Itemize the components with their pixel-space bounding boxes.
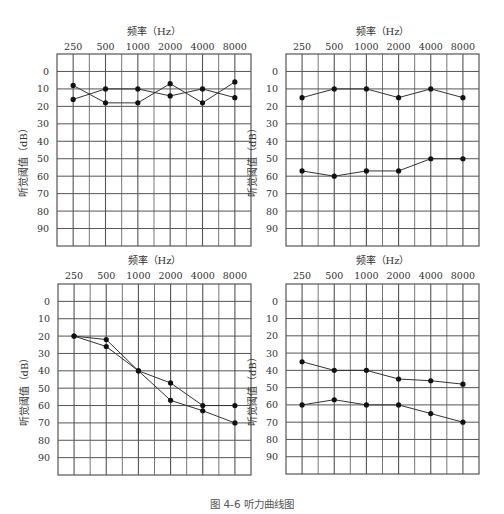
x-tick-label: 250 bbox=[293, 41, 311, 52]
y-tick-label: 80 bbox=[37, 206, 49, 217]
x-tick-label: 4000 bbox=[190, 41, 214, 52]
x-tick-label: 8000 bbox=[223, 41, 247, 52]
data-point-marker bbox=[332, 86, 337, 91]
data-point-marker bbox=[200, 408, 205, 413]
data-point-marker bbox=[103, 86, 108, 91]
y-tick-label: 40 bbox=[38, 365, 50, 376]
data-point-marker bbox=[103, 100, 108, 105]
data-point-marker bbox=[332, 368, 337, 373]
x-tick-label: 1000 bbox=[354, 270, 378, 281]
data-point-marker bbox=[428, 378, 433, 383]
y-tick-label: 40 bbox=[266, 365, 278, 376]
y-tick-label: 30 bbox=[38, 348, 50, 359]
data-point-marker bbox=[332, 174, 337, 179]
data-point-marker bbox=[460, 156, 465, 161]
grid bbox=[57, 54, 251, 246]
data-point-marker bbox=[232, 79, 237, 84]
grid bbox=[286, 54, 479, 246]
y-tick-label: 30 bbox=[37, 118, 49, 129]
x-tick-label: 250 bbox=[64, 41, 82, 52]
grid bbox=[58, 284, 251, 475]
data-point-marker bbox=[135, 86, 140, 91]
y-axis-title: 听觉阈值（dB） bbox=[246, 123, 258, 197]
x-tick-label: 4000 bbox=[419, 41, 443, 52]
x-axis-title: 频率（Hz） bbox=[128, 254, 182, 266]
data-point-marker bbox=[364, 168, 369, 173]
x-tick-label: 2000 bbox=[386, 41, 410, 52]
x-tick-label: 2000 bbox=[158, 270, 182, 281]
y-tick-label: 20 bbox=[37, 101, 49, 112]
y-axis-title: 听觉阈值（dB） bbox=[18, 353, 30, 427]
x-tick-label: 8000 bbox=[223, 270, 247, 281]
data-point-marker bbox=[460, 95, 465, 100]
data-point-marker bbox=[200, 403, 205, 408]
y-tick-label: 90 bbox=[38, 452, 50, 463]
y-tick-label: 20 bbox=[266, 101, 278, 112]
x-tick-label: 2000 bbox=[386, 270, 410, 281]
data-point-marker bbox=[364, 368, 369, 373]
data-point-marker bbox=[299, 168, 304, 173]
data-point-marker bbox=[460, 382, 465, 387]
y-tick-label: 0 bbox=[43, 66, 49, 77]
y-tick-label: 70 bbox=[266, 417, 278, 428]
data-point-marker bbox=[168, 93, 173, 98]
y-tick-label: 80 bbox=[266, 206, 278, 217]
x-tick-label: 500 bbox=[325, 270, 343, 281]
audiogram-bottom-left: 频率（Hz）2505001000200040008000010203040506… bbox=[18, 254, 251, 475]
data-point-marker bbox=[428, 156, 433, 161]
x-axis-title: 频率（Hz） bbox=[127, 25, 181, 37]
y-tick-label: 70 bbox=[266, 188, 278, 199]
data-point-marker bbox=[168, 380, 173, 385]
data-point-marker bbox=[428, 411, 433, 416]
data-point-marker bbox=[299, 359, 304, 364]
data-point-marker bbox=[396, 95, 401, 100]
y-tick-label: 30 bbox=[266, 118, 278, 129]
x-tick-label: 8000 bbox=[451, 270, 475, 281]
x-tick-label: 250 bbox=[293, 270, 311, 281]
y-tick-label: 60 bbox=[37, 171, 49, 182]
data-point-marker bbox=[168, 398, 173, 403]
y-tick-label: 10 bbox=[37, 83, 49, 94]
x-axis-title: 频率（Hz） bbox=[356, 254, 410, 266]
grid bbox=[286, 284, 479, 474]
y-axis-title: 听觉阈值（dB） bbox=[246, 352, 258, 426]
x-tick-label: 500 bbox=[97, 270, 115, 281]
y-tick-label: 90 bbox=[266, 223, 278, 234]
x-tick-label: 1000 bbox=[126, 270, 150, 281]
data-point-marker bbox=[460, 420, 465, 425]
x-tick-label: 500 bbox=[96, 41, 114, 52]
y-tick-label: 80 bbox=[266, 434, 278, 445]
figure-caption: 图 4-6 听力曲线图 bbox=[0, 496, 504, 511]
y-tick-label: 60 bbox=[266, 399, 278, 410]
y-tick-label: 10 bbox=[38, 313, 50, 324]
y-tick-label: 90 bbox=[266, 451, 278, 462]
data-point-marker bbox=[104, 337, 109, 342]
y-tick-label: 70 bbox=[37, 188, 49, 199]
y-tick-label: 60 bbox=[38, 400, 50, 411]
audiogram-top-left: 频率（Hz）2505001000200040008000010203040506… bbox=[17, 25, 251, 246]
y-tick-label: 0 bbox=[272, 296, 278, 307]
data-point-marker bbox=[299, 95, 304, 100]
data-point-marker bbox=[135, 100, 140, 105]
data-point-marker bbox=[232, 420, 237, 425]
x-tick-label: 4000 bbox=[419, 270, 443, 281]
data-point-marker bbox=[396, 376, 401, 381]
x-tick-label: 1000 bbox=[354, 41, 378, 52]
x-tick-label: 8000 bbox=[451, 41, 475, 52]
audiogram-bottom-right: 频率（Hz）2505001000200040008000010203040506… bbox=[246, 254, 479, 474]
data-point-marker bbox=[396, 402, 401, 407]
y-tick-label: 40 bbox=[266, 136, 278, 147]
y-tick-label: 0 bbox=[44, 296, 50, 307]
data-point-marker bbox=[200, 100, 205, 105]
data-point-marker bbox=[396, 168, 401, 173]
x-tick-label: 2000 bbox=[158, 41, 182, 52]
y-tick-label: 10 bbox=[266, 83, 278, 94]
audiogram-top-right: 频率（Hz）2505001000200040008000010203040506… bbox=[246, 25, 479, 246]
y-tick-label: 50 bbox=[37, 153, 49, 164]
x-tick-label: 500 bbox=[325, 41, 343, 52]
x-tick-label: 250 bbox=[65, 270, 83, 281]
data-point-marker bbox=[71, 97, 76, 102]
data-point-marker bbox=[136, 368, 141, 373]
y-axis-title: 听觉阈值（dB） bbox=[17, 123, 29, 197]
x-tick-label: 1000 bbox=[126, 41, 150, 52]
